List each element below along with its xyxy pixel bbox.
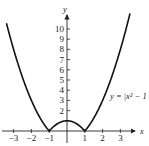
y-tick-label: 8 — [60, 44, 65, 54]
curve-annotation: y = |x² − 1 — [109, 91, 147, 101]
y-tick-label: 2 — [60, 106, 65, 116]
x-tick-label: 2 — [100, 133, 105, 143]
y-tick-label: 4 — [60, 85, 65, 95]
x-tick-label: −1 — [44, 133, 54, 143]
y-tick-label: 10 — [55, 24, 65, 34]
x-tick-label: 3 — [118, 133, 123, 143]
x-axis-label: x — [139, 126, 144, 136]
x-tick-label: −3 — [9, 133, 19, 143]
y-tick-label: 6 — [60, 65, 65, 75]
y-ticks: 2345678910 — [55, 24, 70, 116]
function-curve — [6, 13, 130, 131]
y-tick-label: 3 — [60, 95, 65, 105]
y-tick-label: 7 — [60, 55, 65, 65]
y-tick-label: 5 — [60, 75, 65, 85]
y-tick-label: 9 — [60, 34, 65, 44]
x-tick-label: −2 — [27, 133, 37, 143]
chart-canvas: −3−2−1123 2345678910 x y y = |x² − 1 — [0, 0, 149, 146]
y-axis-label: y — [62, 4, 67, 14]
x-tick-label: 1 — [83, 133, 88, 143]
